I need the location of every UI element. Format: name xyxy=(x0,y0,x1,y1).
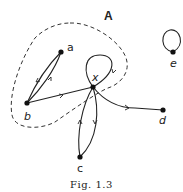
node-d-label: d xyxy=(159,114,167,127)
node-a xyxy=(58,49,63,54)
figure-caption: Fig. 1.3 xyxy=(70,179,113,190)
edge-e-loop xyxy=(163,30,181,52)
node-a-label: a xyxy=(67,41,74,54)
node-d xyxy=(160,107,165,112)
node-b xyxy=(24,100,29,105)
node-c-label: c xyxy=(77,162,83,175)
edge-b-a xyxy=(27,52,61,103)
node-b-label: b xyxy=(24,110,31,123)
set-a-label: A xyxy=(104,9,113,23)
node-x xyxy=(90,84,95,89)
edge-a-b xyxy=(27,52,61,103)
node-x-label: x xyxy=(91,71,99,84)
node-e xyxy=(170,49,175,54)
node-e-label: e xyxy=(170,57,177,70)
graph-diagram: A a b x c d e Fig. 1.3 xyxy=(0,0,183,192)
edge-x-loop xyxy=(86,55,112,87)
node-c xyxy=(77,154,82,159)
edge-b-x xyxy=(27,87,93,103)
